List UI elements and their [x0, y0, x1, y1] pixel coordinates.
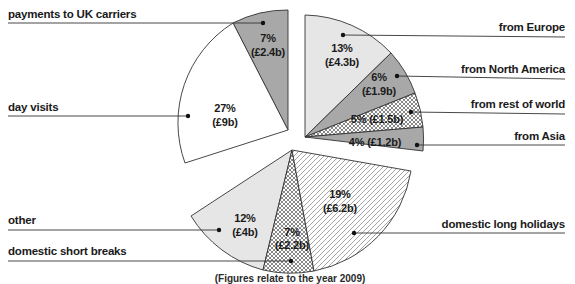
label-domestic-short-breaks: domestic short breaks	[8, 245, 127, 257]
value-domestic-long-amt: (£6.2b)	[323, 202, 358, 214]
label-domestic-long-holidays: domestic long holidays	[442, 218, 565, 230]
value-domestic-long-pct: 19%	[329, 188, 351, 200]
value-other-amt: (£4b)	[232, 226, 258, 238]
label-from-asia: from Asia	[514, 130, 566, 142]
label-from-north-america: from North America	[461, 63, 566, 75]
value-day-visits-pct: 27%	[214, 102, 236, 114]
value-europe-amt: (£4.3b)	[325, 56, 360, 68]
label-payments-to-uk-carriers: payments to UK carriers	[8, 8, 136, 20]
label-from-rest-of-world: from rest of world	[471, 98, 565, 110]
label-other: other	[8, 214, 36, 226]
value-europe-pct: 13%	[331, 42, 353, 54]
value-north-america-pct: 6%	[371, 71, 387, 83]
value-asia: 4% (£1.2b)	[349, 136, 402, 148]
label-day-visits: day visits	[8, 101, 58, 113]
value-north-america-amt: (£1.9b)	[362, 85, 397, 97]
value-payments-amt: (£2.4b)	[251, 46, 286, 58]
value-domestic-short-pct: 7%	[284, 226, 300, 238]
value-domestic-short-amt: (£2.2b)	[275, 239, 310, 251]
pie-chart: payments to UK carriers day visits from …	[0, 0, 575, 284]
value-payments-pct: 7%	[260, 32, 276, 44]
value-day-visits-amt: (£9b)	[212, 116, 238, 128]
label-from-europe: from Europe	[499, 21, 565, 33]
chart-caption: (Figures relate to the year 2009)	[215, 273, 366, 284]
value-rest-of-world: 5% (£1.5b)	[351, 113, 404, 125]
value-other-pct: 12%	[234, 212, 256, 224]
